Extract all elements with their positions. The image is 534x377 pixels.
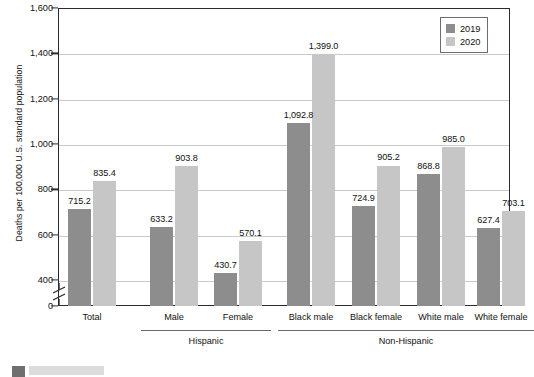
bar-2019-black-female bbox=[352, 206, 375, 306]
bar-value-label: 570.1 bbox=[239, 228, 261, 238]
y-axis-tick-mark bbox=[51, 53, 58, 54]
bar-value-label: 633.2 bbox=[150, 214, 172, 224]
x-axis-label-female: Female bbox=[223, 312, 253, 322]
bar-value-label: 715.2 bbox=[68, 196, 90, 206]
bar-value-label: 724.9 bbox=[352, 193, 374, 203]
bar-value-label: 905.2 bbox=[377, 152, 399, 162]
legend-label-2020: 2020 bbox=[460, 37, 480, 47]
x-axis-label-male: Male bbox=[164, 312, 184, 322]
legend-item-2019[interactable]: 2019 bbox=[446, 22, 480, 35]
bar-2019-male bbox=[150, 227, 173, 306]
group-label-hispanic: Hispanic bbox=[189, 336, 224, 346]
legend-item-2020[interactable]: 2020 bbox=[446, 35, 480, 48]
y-axis-tick-label: 0 bbox=[7, 301, 53, 311]
x-axis-label-white-male: White male bbox=[418, 312, 463, 322]
x-axis-label-white-female: White female bbox=[474, 312, 527, 322]
bar-value-label: 1,092.8 bbox=[284, 110, 314, 120]
bar-2019-total bbox=[68, 209, 91, 306]
chart-legend: 2019 2020 bbox=[440, 17, 488, 53]
bar-2020-black-male bbox=[312, 54, 335, 306]
y-axis-tick-label: 1,000 bbox=[7, 139, 53, 149]
bar-2019-female bbox=[214, 273, 237, 306]
bar-value-label: 430.7 bbox=[214, 260, 236, 270]
footnote-legend-strip bbox=[12, 366, 104, 377]
y-axis-tick-mark bbox=[51, 98, 58, 99]
legend-swatch-icon-2019 bbox=[446, 24, 455, 33]
y-axis-tick-label: 600 bbox=[7, 230, 53, 240]
bar-value-label: 835.4 bbox=[93, 168, 115, 178]
group-label-non-hispanic: Non-Hispanic bbox=[379, 336, 434, 346]
bar-value-label: 703.1 bbox=[502, 198, 524, 208]
y-axis-tick-label: 1,600 bbox=[7, 3, 53, 13]
y-axis-tick-label: 1,400 bbox=[7, 48, 53, 58]
y-axis-tick-label: 400 bbox=[7, 275, 53, 285]
bar-value-label: 1,399.0 bbox=[309, 41, 339, 51]
bar-value-label: 903.8 bbox=[175, 153, 197, 163]
bar-2020-white-male bbox=[442, 147, 465, 306]
bar-2020-female bbox=[239, 241, 262, 306]
bar-2020-total bbox=[93, 181, 116, 306]
bar-2019-white-male bbox=[417, 174, 440, 306]
y-axis-tick-mark bbox=[51, 279, 58, 280]
bar-2019-white-female bbox=[477, 228, 500, 306]
x-axis-label-total: Total bbox=[82, 312, 101, 322]
y-axis-tick-mark bbox=[51, 234, 58, 235]
y-axis-tick-mark bbox=[51, 305, 58, 306]
y-axis-tick-mark bbox=[51, 143, 58, 144]
legend-label-2019: 2019 bbox=[460, 24, 480, 34]
group-bracket bbox=[278, 330, 534, 331]
y-axis-tick-label: 1,200 bbox=[7, 94, 53, 104]
bar-value-label: 985.0 bbox=[442, 134, 464, 144]
y-axis-tick-label: 800 bbox=[7, 184, 53, 194]
group-bracket bbox=[141, 330, 271, 331]
x-axis-label-black-female: Black female bbox=[350, 312, 402, 322]
bar-2020-male bbox=[175, 166, 198, 306]
bar-2020-white-female bbox=[502, 211, 525, 306]
legend-swatch-icon-2020 bbox=[446, 37, 455, 46]
x-axis-label-black-male: Black male bbox=[289, 312, 333, 322]
footnote-swatch-dark-icon bbox=[12, 366, 25, 377]
y-axis-tick-mark bbox=[51, 189, 58, 190]
bar-2019-black-male bbox=[287, 123, 310, 306]
bar-value-label: 868.8 bbox=[417, 161, 439, 171]
y-axis-title: Deaths per 100,000 U.S. standard populat… bbox=[14, 28, 24, 278]
bar-value-label: 627.4 bbox=[477, 215, 499, 225]
y-axis-tick-mark bbox=[51, 7, 58, 8]
bar-2020-black-female bbox=[377, 166, 400, 307]
footnote-swatch-light-icon bbox=[29, 366, 104, 375]
